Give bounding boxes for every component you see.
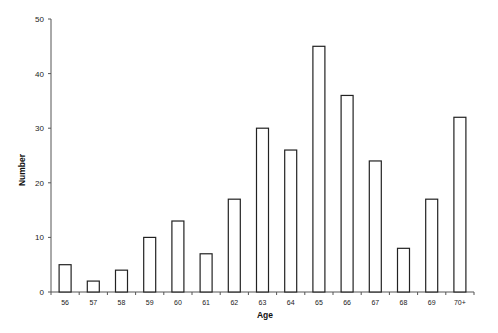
x-tick-label: 62 (230, 299, 238, 306)
x-tick-label: 63 (259, 299, 267, 306)
bar-66 (341, 95, 353, 292)
bar-69 (426, 199, 438, 292)
y-axis-label: Number (17, 154, 27, 186)
x-tick-label: 58 (118, 299, 126, 306)
y-tick-label: 50 (35, 15, 44, 24)
y-tick-label: 20 (35, 179, 44, 188)
chart-canvas: 0102030405056575859606162636465666768697… (0, 0, 498, 333)
bar-63 (257, 128, 269, 292)
bar-68 (398, 248, 410, 292)
x-tick-label: 64 (287, 299, 295, 306)
y-tick-label: 10 (35, 233, 44, 242)
y-tick-label: 40 (35, 70, 44, 79)
x-tick-label: 70+ (454, 299, 466, 306)
bar-57 (87, 281, 99, 292)
y-tick-label: 30 (35, 124, 44, 133)
x-tick-label: 67 (371, 299, 379, 306)
bar-59 (144, 237, 156, 292)
bar-56 (59, 265, 71, 292)
x-tick-label: 68 (400, 299, 408, 306)
x-tick-label: 59 (146, 299, 154, 306)
x-tick-label: 69 (428, 299, 436, 306)
bar-64 (285, 150, 297, 292)
x-tick-label: 65 (315, 299, 323, 306)
bar-65 (313, 46, 325, 292)
bar-62 (228, 199, 240, 292)
x-tick-label: 57 (89, 299, 97, 306)
x-tick-label: 61 (202, 299, 210, 306)
x-tick-label: 66 (343, 299, 351, 306)
bar-70+ (454, 117, 466, 292)
bar-67 (369, 161, 381, 292)
x-tick-label: 56 (61, 299, 69, 306)
bar-58 (116, 270, 128, 292)
bar-60 (172, 221, 184, 292)
y-tick-label: 0 (40, 288, 45, 297)
bar-61 (200, 254, 212, 292)
x-tick-label: 60 (174, 299, 182, 306)
x-axis-label: Age (257, 310, 273, 320)
